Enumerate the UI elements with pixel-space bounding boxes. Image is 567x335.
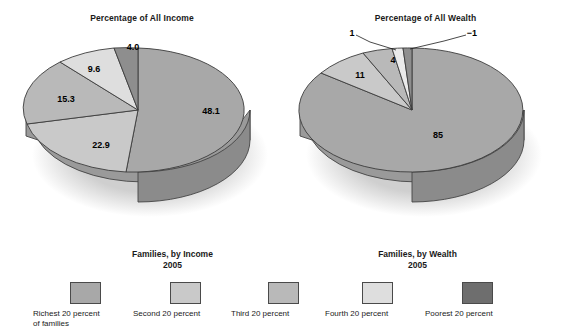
caption-wealth-year: 2005: [300, 260, 535, 271]
legend-item-second: Second 20 percent: [133, 282, 237, 319]
caption-wealth-line1: Families, by Wealth: [300, 249, 535, 260]
pie-label-wealth-third: 4: [381, 55, 405, 65]
caption-income-year: 2005: [55, 260, 290, 271]
pie-slices-wealth: [299, 48, 523, 172]
legend-item-fourth: Fourth 20 percent: [325, 282, 429, 319]
legend-item-third: Third 20 percent: [231, 282, 335, 319]
legend-label-third: Third 20 percent: [231, 309, 335, 319]
caption-wealth: Families, by Wealth 2005: [300, 249, 535, 271]
pie-chart-income: [0, 0, 284, 250]
pie-label-income-third: 15.3: [46, 94, 86, 104]
legend-label-fourth: Fourth 20 percent: [325, 309, 429, 319]
legend-label-poorest: Poorest 20 percent: [425, 309, 529, 319]
pie-label-wealth-richest: 85: [418, 130, 458, 140]
pie-label-income-poorest: 4.0: [116, 42, 150, 52]
figure-two-pie-charts: Percentage of All Income: [0, 0, 567, 335]
pie-chart-wealth: [284, 0, 567, 250]
pie-label-wealth-poorest: −1: [459, 28, 485, 38]
caption-income-line1: Families, by Income: [55, 249, 290, 260]
legend-item-poorest: Poorest 20 percent: [425, 282, 529, 319]
legend-swatch-third: [268, 282, 299, 304]
legend-swatch-fourth: [362, 282, 393, 304]
legend-label-richest: Richest 20 percent of families: [33, 309, 137, 328]
legend-swatch-second: [170, 282, 201, 304]
caption-income: Families, by Income 2005: [55, 249, 290, 271]
pie-label-income-richest: 48.1: [191, 106, 231, 116]
pie-label-income-fourth: 9.6: [77, 64, 111, 74]
legend-swatch-richest: [70, 282, 101, 304]
pie-label-wealth-second: 11: [345, 70, 375, 80]
legend-item-richest: Richest 20 percent of families: [33, 282, 137, 328]
legend: Richest 20 percent of families Second 20…: [0, 282, 567, 330]
pie-label-income-second: 22.9: [81, 140, 121, 150]
legend-label-second: Second 20 percent: [133, 309, 237, 319]
pie-label-wealth-fourth: 1: [340, 28, 364, 38]
legend-swatch-poorest: [462, 282, 493, 304]
